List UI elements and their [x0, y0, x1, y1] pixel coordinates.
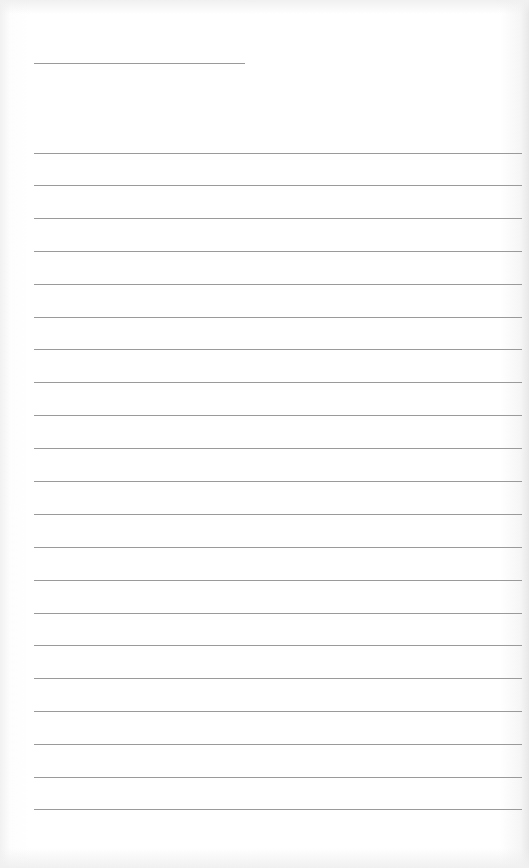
ruled-line [34, 251, 522, 252]
ruled-line [34, 448, 522, 449]
ruled-line [34, 777, 522, 778]
ruled-line [34, 645, 522, 646]
notepaper [0, 0, 529, 868]
ruled-line [34, 744, 522, 745]
ruled-line [34, 218, 522, 219]
ruled-line [34, 349, 522, 350]
ruled-line [34, 547, 522, 548]
ruled-line [34, 284, 522, 285]
ruled-line [34, 382, 522, 383]
ruled-line [34, 514, 522, 515]
ruled-line [34, 153, 522, 154]
ruled-line [34, 317, 522, 318]
ruled-line [34, 185, 522, 186]
ruled-line [34, 481, 522, 482]
ruled-line [34, 678, 522, 679]
ruled-line [34, 580, 522, 581]
ruled-line [34, 613, 522, 614]
ruled-line [34, 415, 522, 416]
title-rule [34, 63, 245, 64]
ruled-line [34, 711, 522, 712]
ruled-line [34, 809, 522, 810]
